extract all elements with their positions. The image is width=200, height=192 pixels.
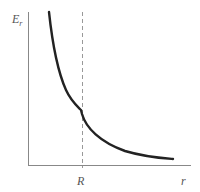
y-axis-label: Er xyxy=(11,12,23,28)
field-curve xyxy=(49,12,173,159)
field-vs-radius-chart: Er R r xyxy=(0,0,200,192)
x-tick-label-R: R xyxy=(76,174,85,188)
x-axis-label: r xyxy=(181,174,186,188)
